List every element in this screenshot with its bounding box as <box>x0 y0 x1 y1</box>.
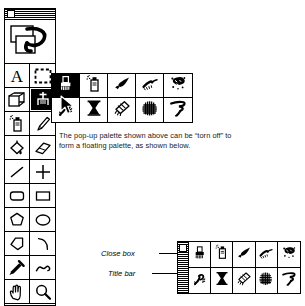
close-box-callout-leader <box>159 253 179 254</box>
tool-cell-spray-can[interactable] <box>5 112 30 136</box>
paint-bucket-icon <box>33 90 53 110</box>
tool-cell-crosshair[interactable] <box>30 160 55 184</box>
crosshair-icon <box>33 162 53 182</box>
eyedropper-icon <box>7 258 27 278</box>
tool-palette-title-bar[interactable] <box>5 9 55 20</box>
floating-item-paint-brush[interactable] <box>189 242 211 268</box>
tool-cell-shape-transform[interactable] <box>5 88 30 112</box>
charcoal-icon <box>258 244 275 264</box>
floating-palette-title-bar[interactable] <box>178 242 189 293</box>
tool-cell-rectangle[interactable] <box>30 184 55 208</box>
shape-transform-icon <box>7 90 27 110</box>
tool-cell-squiggle[interactable] <box>30 256 55 280</box>
floating-palette-close-box[interactable] <box>179 244 187 252</box>
hand-icon <box>7 282 27 302</box>
tool-grid: A <box>5 64 55 304</box>
wide-brush-icon <box>235 244 252 264</box>
eraser-icon <box>33 138 53 158</box>
hourglass-icon <box>213 270 230 290</box>
tool-cell-arc[interactable] <box>30 232 55 256</box>
grid-texture-icon <box>258 270 275 290</box>
polygon-icon <box>7 210 27 230</box>
chalk-icon <box>112 99 132 122</box>
floating-item-ribbon[interactable] <box>278 268 300 294</box>
tool-cell-text-tool-A[interactable]: A <box>5 64 30 88</box>
rounded-rectangle-icon <box>7 186 27 206</box>
floating-item-spray-can[interactable] <box>211 242 233 268</box>
close-box-callout-label: Close box <box>101 249 135 258</box>
title-bar-callout-label: Title bar <box>108 269 135 278</box>
floating-palette-grid <box>189 242 300 293</box>
title-bar-callout-leader <box>152 273 179 274</box>
tool-palette-window: A <box>4 8 56 306</box>
tool-cell-ellipse[interactable] <box>30 208 55 232</box>
pencil-icon <box>33 114 53 134</box>
arrow-pointer-icon <box>60 95 75 115</box>
figure-stage: A The pop-up palette shown above can be … <box>0 0 305 306</box>
ribbon-icon <box>168 99 188 122</box>
spray-can-icon <box>84 74 104 98</box>
tool-cell-magnifier[interactable] <box>30 280 55 304</box>
svg-text:A: A <box>11 67 24 86</box>
tool-cell-fill-bucket[interactable] <box>5 136 30 160</box>
popup-item-charcoal[interactable] <box>136 74 164 98</box>
splatter-icon <box>168 74 188 97</box>
charcoal-icon <box>140 74 160 97</box>
smoke-swirl-icon <box>191 270 208 290</box>
floating-item-wide-brush[interactable] <box>233 242 255 268</box>
rectangle-icon <box>33 186 53 206</box>
splatter-icon <box>280 244 297 264</box>
pattern-preview-pane <box>5 20 55 64</box>
marquee-selection-icon <box>33 66 53 86</box>
floating-item-smoke-swirl[interactable] <box>189 268 211 294</box>
popup-item-chalk[interactable] <box>108 98 136 122</box>
popup-item-spray-can[interactable] <box>80 74 108 98</box>
line-icon <box>7 162 27 182</box>
tool-cell-freeform-shape[interactable] <box>5 232 30 256</box>
popup-item-splatter[interactable] <box>164 74 192 98</box>
floating-palette-window <box>177 241 301 294</box>
grid-texture-icon <box>140 99 160 122</box>
tool-cell-hand[interactable] <box>5 280 30 304</box>
wide-brush-icon <box>112 74 132 97</box>
floating-item-chalk[interactable] <box>233 268 255 294</box>
popup-item-hourglass[interactable] <box>80 98 108 122</box>
chalk-icon <box>235 270 252 290</box>
tool-palette-close-box[interactable] <box>7 10 15 18</box>
floating-item-grid-texture[interactable] <box>256 268 278 294</box>
popup-item-grid-texture[interactable] <box>136 98 164 122</box>
squiggle-icon <box>33 258 53 278</box>
floating-item-hourglass[interactable] <box>211 268 233 294</box>
magnifier-icon <box>33 282 53 302</box>
ellipse-icon <box>33 210 53 230</box>
popup-item-ribbon[interactable] <box>164 98 192 122</box>
tool-cell-polygon[interactable] <box>5 208 30 232</box>
hourglass-icon <box>84 99 104 122</box>
paint-brush-icon <box>191 244 208 264</box>
tool-cell-eraser[interactable] <box>30 136 55 160</box>
spray-can-icon <box>7 114 27 134</box>
ribbon-icon <box>280 270 297 290</box>
tool-cell-eyedropper[interactable] <box>5 256 30 280</box>
floating-item-splatter[interactable] <box>278 242 300 268</box>
popup-item-wide-brush[interactable] <box>108 74 136 98</box>
fill-bucket-icon <box>7 138 27 158</box>
tool-cell-rounded-rectangle[interactable] <box>5 184 30 208</box>
tool-cell-line[interactable] <box>5 160 30 184</box>
arc-icon <box>33 234 53 254</box>
floating-item-charcoal[interactable] <box>256 242 278 268</box>
floating-palette-body <box>189 242 300 293</box>
figure-caption: The pop-up palette shown above can be “t… <box>59 131 244 152</box>
freeform-shape-icon <box>7 234 27 254</box>
spray-can-icon <box>213 244 230 265</box>
lasso-selection-preview-icon <box>5 20 54 62</box>
text-tool-A: A <box>7 66 27 86</box>
paint-brush-icon <box>56 74 76 97</box>
